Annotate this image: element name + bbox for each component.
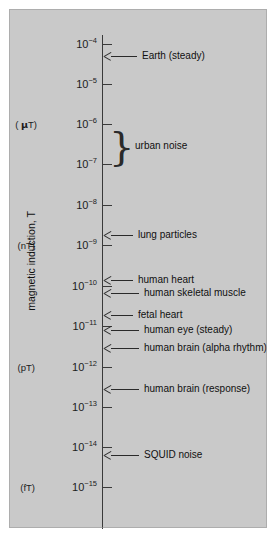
annotation-label: human eye (steady) <box>144 324 232 336</box>
y-tick--11: 10−11 <box>9 320 97 332</box>
unit-prefix-label: (nT) <box>18 241 35 251</box>
annotation-label: human brain (alpha rhythm) <box>144 342 267 354</box>
y-tick--15: (fT)10−15 <box>9 481 97 493</box>
arrow-shaft <box>111 389 139 390</box>
y-tick--13: 10−13 <box>9 401 97 413</box>
arrow-shaft <box>111 280 133 281</box>
annotation-label: lung particles <box>138 229 197 241</box>
y-tick-label: 10−9 <box>37 240 97 251</box>
y-tick-label: 10−7 <box>37 159 97 170</box>
y-tick-label: 10−15 <box>37 482 97 493</box>
y-tick-label: 10−12 <box>37 362 97 373</box>
urban-noise-brace: } <box>109 126 119 166</box>
y-tick--4: 10−4 <box>9 38 97 50</box>
y-tick-label: 10−5 <box>37 79 97 90</box>
y-tick-label: 10−4 <box>37 39 97 50</box>
arrow-shaft <box>111 348 139 349</box>
y-tick-label: 10−8 <box>37 200 97 211</box>
annotation-label: human brain (response) <box>144 383 250 395</box>
magnetic-induction-scale-figure: magnetic induction, T 10−410−5( μT)10−61… <box>0 0 275 539</box>
arrow-shaft <box>111 455 139 456</box>
chart-panel: magnetic induction, T 10−410−5( μT)10−61… <box>9 9 267 528</box>
y-tick--6: ( μT)10−6 <box>9 118 97 130</box>
unit-prefix-label: (fT) <box>20 483 35 493</box>
annotation-label: Earth (steady) <box>142 50 205 62</box>
y-tick--5: 10−5 <box>9 78 97 90</box>
annotation-label: human heart <box>138 274 194 286</box>
unit-prefix-label: ( μT) <box>15 120 37 130</box>
y-tick-mark <box>103 447 112 448</box>
y-tick--10: 10−10 <box>9 280 97 292</box>
urban-noise-label: urban noise <box>135 140 187 151</box>
y-tick--7: 10−7 <box>9 158 97 170</box>
y-tick--9: (nT)10−9 <box>9 239 97 251</box>
y-tick-mark <box>103 407 112 408</box>
y-tick-label: 10−10 <box>37 281 97 292</box>
unit-prefix-label: (pT) <box>18 363 35 373</box>
y-tick-label: 10−14 <box>37 442 97 453</box>
y-tick--8: 10−8 <box>9 199 97 211</box>
y-tick-mark <box>103 84 112 85</box>
y-tick-mark <box>103 367 112 368</box>
annotation-label: SQUID noise <box>144 449 202 461</box>
y-tick-mark <box>103 487 112 488</box>
annotation-label: human skeletal muscle <box>144 287 246 299</box>
arrow-shaft <box>111 56 137 57</box>
y-tick-label: 10−13 <box>37 402 97 413</box>
y-tick-label: 10−6 <box>37 119 97 130</box>
y-tick--14: 10−14 <box>9 441 97 453</box>
arrow-shaft <box>111 315 133 316</box>
y-tick--12: (pT)10−12 <box>9 361 97 373</box>
y-tick-mark <box>103 245 112 246</box>
arrow-shaft <box>111 330 139 331</box>
y-tick-mark <box>103 44 112 45</box>
y-axis-title: magnetic induction, T <box>25 191 37 331</box>
arrow-shaft <box>111 235 133 236</box>
y-tick-mark <box>103 205 112 206</box>
y-tick-mark <box>103 286 112 287</box>
y-tick-label: 10−11 <box>37 321 97 332</box>
arrow-shaft <box>111 293 139 294</box>
annotation-label: fetal heart <box>138 309 182 321</box>
